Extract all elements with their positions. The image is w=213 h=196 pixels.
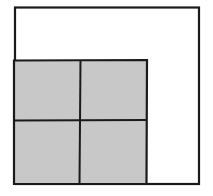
grid-cell-bottom-right: [80, 120, 147, 184]
grid-cell-bottom-left: [14, 120, 80, 184]
grid-divider-horizontal: [14, 120, 147, 121]
diagram-canvas: [0, 0, 213, 196]
grid-cell-top-right: [80, 60, 147, 120]
grid-cell-top-left: [14, 60, 80, 120]
grid-divider-vertical: [80, 60, 81, 184]
shaded-grid: [14, 60, 147, 184]
